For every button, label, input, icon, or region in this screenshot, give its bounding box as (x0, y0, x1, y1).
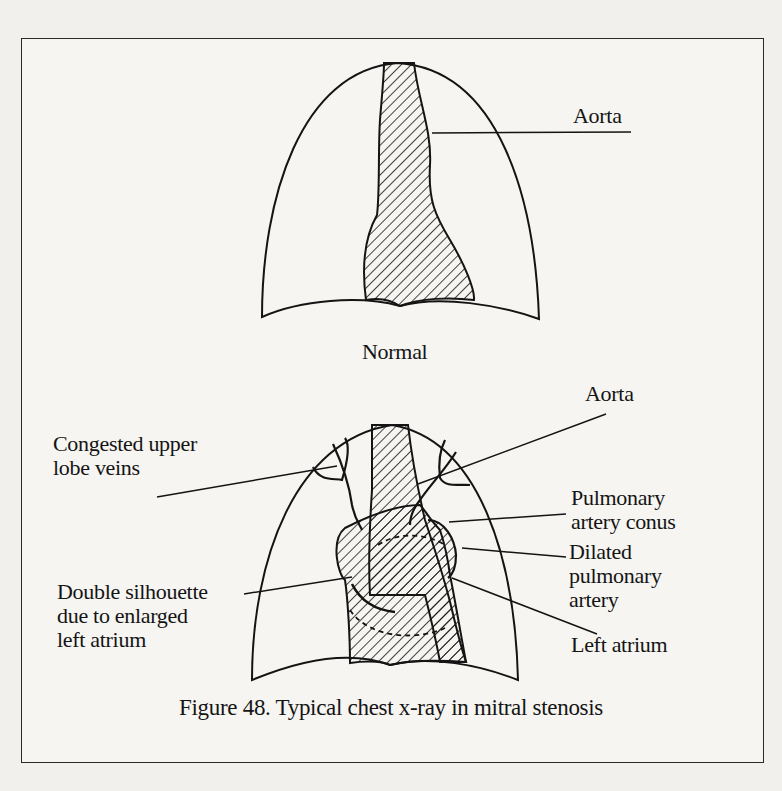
ms-pulmonary-conus-label: Pulmonary artery conus (571, 486, 676, 534)
ms-heart-shadow (336, 425, 466, 665)
figure-caption: Figure 48. Typical chest x-ray in mitral… (0, 695, 782, 721)
chest-xray-diagram (0, 0, 782, 791)
ms-double-silhouette-label: Double silhouette due to enlarged left a… (57, 580, 208, 652)
ms-dilated-pa-label: Dilated pulmonary artery (569, 540, 662, 612)
normal-panel-title: Normal (362, 340, 427, 364)
normal-aorta-leader (432, 132, 631, 133)
normal-mediastinum (364, 63, 474, 306)
ms-aorta-label: Aorta (585, 382, 634, 406)
ms-congested-veins-label: Congested upper lobe veins (53, 432, 197, 480)
ms-left-atrium-label: Left atrium (571, 633, 667, 657)
normal-aorta-label: Aorta (573, 104, 622, 128)
